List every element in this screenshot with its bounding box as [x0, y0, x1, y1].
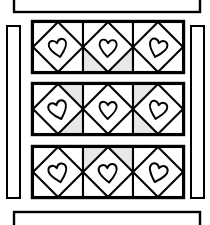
left-sashing-strip-shape [7, 26, 20, 198]
right-sashing-strip [191, 26, 204, 198]
heart-block-r2c1 [33, 84, 83, 134]
heart-block-r1c1 [33, 22, 83, 72]
top-sashing-strip-shape [14, 0, 200, 12]
heart-block-r1c3 [133, 22, 183, 72]
heart-block-r2c3 [133, 84, 183, 134]
quilt-diagram-canvas [0, 0, 210, 225]
bottom-sashing-strip-shape [14, 212, 200, 225]
heart-block-r3c2 [83, 147, 133, 197]
heart-block-r1c2 [83, 22, 133, 72]
heart-block-r2c2 [83, 84, 133, 134]
heart-block-r3c3 [133, 147, 183, 197]
top-sashing-strip [14, 0, 200, 12]
block-grid-layer [32, 21, 184, 198]
bottom-sashing-strip [14, 212, 200, 225]
heart-block-r3c1 [33, 147, 83, 197]
quilt-pattern-figure [0, 0, 210, 225]
left-sashing-strip [7, 26, 20, 198]
right-sashing-strip-shape [191, 26, 204, 198]
